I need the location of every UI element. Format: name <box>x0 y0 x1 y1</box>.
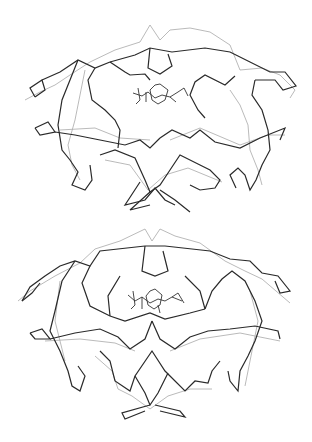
backbone-segment <box>55 281 65 361</box>
backbone-segment <box>160 190 190 212</box>
backbone-segment <box>185 276 205 309</box>
backbone-segment <box>105 160 222 190</box>
ligand-top <box>133 84 188 104</box>
panel-bottom <box>0 221 312 442</box>
backbone-segment <box>100 150 170 192</box>
backbone-segment <box>131 291 135 309</box>
backbone-segment <box>42 60 110 80</box>
protein-trace-top <box>0 0 312 221</box>
backbone-segment <box>170 333 280 351</box>
panel-top <box>0 0 312 221</box>
backbone-segment <box>160 128 285 148</box>
backbone-segment <box>178 88 188 96</box>
backbone-segment <box>100 351 220 391</box>
backbone-segment <box>95 356 212 409</box>
backbone-segment <box>136 88 140 104</box>
backbone-segment <box>110 48 296 90</box>
backbone-segment <box>30 329 50 339</box>
protein-trace-bottom <box>0 221 312 442</box>
ligand-bottom <box>128 289 184 313</box>
backbone-segment <box>30 80 45 97</box>
backbone-segment <box>35 122 55 135</box>
backbone-segment <box>230 80 270 190</box>
backbone-segment <box>110 62 150 80</box>
backbone-segment <box>68 70 85 180</box>
dark-backbone-top <box>30 48 296 212</box>
backbone-segment <box>50 321 152 349</box>
backbone-segment <box>170 155 220 190</box>
backbone-segment <box>25 25 240 100</box>
backbone-segment <box>150 84 168 104</box>
backbone-segment <box>122 405 150 419</box>
backbone-segment <box>108 276 120 316</box>
backbone-segment <box>170 97 176 102</box>
backbone-segment <box>82 266 205 321</box>
backbone-segment <box>155 405 185 417</box>
backbone-segment <box>135 373 168 405</box>
backbone-segment <box>142 246 168 276</box>
backbone-segment <box>60 128 150 140</box>
light-backbone-bottom <box>18 229 290 409</box>
backbone-segment <box>130 192 150 210</box>
backbone-segment <box>125 182 175 205</box>
backbone-segment <box>50 261 85 391</box>
backbone-segment <box>240 68 295 98</box>
backbone-segment <box>190 75 235 118</box>
